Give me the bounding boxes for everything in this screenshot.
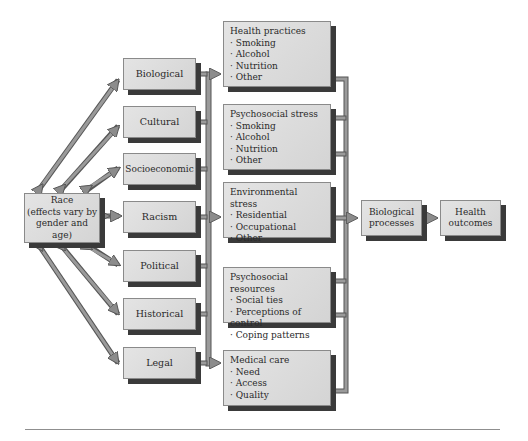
factor-socioeconomic: Socioeconomic <box>123 153 196 185</box>
mediator-item: Other <box>230 233 324 245</box>
biological-processes-box: Biological processes <box>361 200 422 236</box>
outcome-line-1: Health <box>455 207 486 219</box>
race-box: Race (effects vary by gender and age) <box>24 193 100 243</box>
mediator-item: Smoking <box>230 38 324 50</box>
mediator-title: Psychosocial resources <box>230 272 324 295</box>
mediator-title: Environmental stress <box>230 187 324 210</box>
mediator-medical-care: Medical care Need Access Quality <box>223 350 331 406</box>
factor-label: Political <box>124 251 195 281</box>
factor-label: Historical <box>124 299 195 329</box>
mediator-item: Access <box>230 378 324 390</box>
mediator-title: Health practices <box>230 26 324 38</box>
factor-label: Biological <box>124 59 195 89</box>
mediator-item: Need <box>230 367 324 379</box>
factor-label: Socioeconomic <box>124 154 195 184</box>
factor-legal: Legal <box>123 347 196 379</box>
mediator-item: Alcohol <box>230 132 324 144</box>
mediator-item: Other <box>230 72 324 84</box>
race-line-1: Race <box>51 195 74 207</box>
mediator-title: Psychosocial stress <box>230 109 324 121</box>
mediator-psychosocial-resources: Psychosocial resources Social ties Perce… <box>223 267 331 323</box>
mediator-item: Nutrition <box>230 61 324 73</box>
factor-label: Legal <box>124 348 195 378</box>
process-line-2: processes <box>369 218 414 230</box>
mediator-psychosocial-stress: Psychosocial stress Smoking Alcohol Nutr… <box>223 104 331 170</box>
health-outcomes-box: Health outcomes <box>440 200 501 236</box>
mediator-item: Coping patterns <box>230 330 324 342</box>
process-line-1: Biological <box>369 207 414 219</box>
mediator-item: Alcohol <box>230 49 324 61</box>
race-line-2: (effects vary by <box>27 207 97 219</box>
factor-biological: Biological <box>123 58 196 90</box>
factor-cultural: Cultural <box>123 106 196 138</box>
factor-political: Political <box>123 250 196 282</box>
mediator-title: Medical care <box>230 355 324 367</box>
mediator-environmental-stress: Environmental stress Residential Occupat… <box>223 182 331 238</box>
mediator-item: Perceptions of control <box>230 307 324 330</box>
factor-label: Cultural <box>124 107 195 137</box>
mediator-health-practices: Health practices Smoking Alcohol Nutriti… <box>223 21 331 87</box>
mediator-item: Other <box>230 155 324 167</box>
factor-label: Racism <box>124 202 195 232</box>
mediator-item: Smoking <box>230 121 324 133</box>
mediator-item: Social ties <box>230 295 324 307</box>
mediator-item: Nutrition <box>230 144 324 156</box>
factor-racism: Racism <box>123 201 196 233</box>
mediator-item: Occupational <box>230 222 324 234</box>
outcome-line-2: outcomes <box>449 218 493 230</box>
race-line-3: gender and age) <box>25 218 99 241</box>
mediator-item: Quality <box>230 390 324 402</box>
factor-historical: Historical <box>123 298 196 330</box>
mediator-item: Residential <box>230 210 324 222</box>
